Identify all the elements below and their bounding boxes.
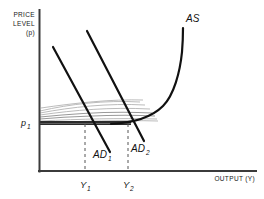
output-tick-y1-sub: 1 — [87, 185, 91, 192]
price-tick-p1-label: p — [20, 118, 26, 128]
price-tick-p1-sub: 1 — [27, 123, 31, 130]
ad-as-diagram: PRICE LEVEL (p) OUTPUT (Y) p 1 Y 1 Y 2 A… — [0, 0, 264, 199]
diagram-canvas: PRICE LEVEL (p) OUTPUT (Y) p 1 Y 1 Y 2 A… — [0, 0, 264, 199]
y-axis-label: PRICE LEVEL (p) — [13, 11, 35, 37]
output-tick-y2-sub: 2 — [129, 185, 134, 192]
ad1-curve-label-sub: 1 — [108, 155, 112, 162]
as-curve-label: AS — [185, 13, 200, 24]
as-curve — [111, 28, 183, 124]
ad1-curve — [53, 47, 110, 152]
x-axis-label: OUTPUT (Y) — [214, 175, 255, 183]
output-tick-y1-label: Y — [80, 179, 87, 190]
output-tick-y2: Y 2 — [123, 179, 134, 192]
y-axis-label-line-2: LEVEL — [13, 20, 35, 27]
ad2-curve-label-text: AD — [130, 143, 145, 154]
output-tick-y1: Y 1 — [80, 179, 91, 192]
output-tick-y2-label: Y — [123, 179, 130, 190]
price-tick-p1: p 1 — [20, 118, 31, 130]
y-axis-label-line-3: (p) — [26, 29, 35, 37]
y-axis-label-line-1: PRICE — [13, 11, 35, 18]
ad2-curve-label-sub: 2 — [145, 149, 150, 156]
ad1-curve-label-text: AD — [92, 149, 107, 160]
ad2-curve-label: AD 2 — [130, 143, 150, 156]
